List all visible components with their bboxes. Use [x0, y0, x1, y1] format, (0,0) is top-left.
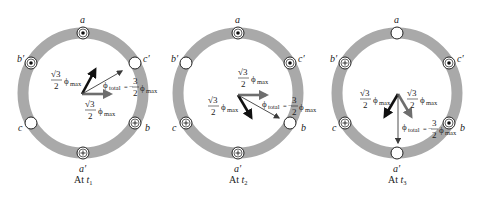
conductor-a-prime-cross-icon: [77, 147, 89, 159]
slot-label-c-prime: c′: [143, 53, 150, 64]
phi-c-component-label: √3 2 ϕ max: [238, 67, 269, 89]
stator-ring: [178, 33, 298, 153]
conductor-a-prime-empty-icon: [391, 147, 403, 159]
svg-text:ϕ: ϕ: [262, 99, 267, 109]
svg-text:2: 2: [292, 107, 297, 117]
phi-a-component-label: √3 2 ϕ max: [51, 69, 82, 91]
svg-text:3: 3: [292, 95, 297, 105]
svg-text:= −: = −: [283, 102, 292, 109]
svg-text:2: 2: [54, 81, 59, 91]
slot-label-b: b: [301, 122, 306, 133]
conductor-c-prime-dot-icon: [443, 57, 455, 69]
conductor-a-empty-icon: [391, 27, 403, 39]
conductor-a-prime-cross-icon: [232, 147, 244, 159]
stator-field-figure: a c′ b a′ c b′ √3 2 ϕ max √3 2 ϕ max ϕ t…: [0, 0, 485, 200]
svg-text:total: total: [268, 103, 280, 110]
conductor-c-prime-empty-icon: [129, 57, 141, 69]
phi-b-component-label: √3 2 ϕ max: [85, 99, 116, 121]
panel-t3: a c′ b a′ c b′ √3 2 ϕ max √3 2 ϕ max ϕ t…: [330, 14, 465, 186]
svg-text:= −: = −: [124, 83, 133, 90]
svg-text:max: max: [104, 110, 116, 117]
svg-text:At t1: At t1: [74, 174, 93, 186]
stator-ring: [337, 33, 457, 153]
svg-text:√3: √3: [51, 69, 61, 79]
svg-text:ϕ: ϕ: [299, 102, 304, 112]
svg-text:√3: √3: [360, 88, 370, 98]
svg-text:total: total: [408, 126, 420, 133]
slot-label-c-prime: c′: [457, 53, 464, 64]
svg-text:ϕ: ϕ: [140, 83, 145, 93]
svg-text:max: max: [445, 129, 457, 136]
svg-text:2: 2: [133, 88, 138, 98]
conductor-b-empty-icon: [284, 117, 296, 129]
svg-text:= −: = −: [423, 125, 432, 132]
conductor-c-empty-icon: [25, 117, 37, 129]
slot-label-a-prime: a′: [393, 163, 401, 174]
caption-t1: At t1: [74, 174, 93, 186]
svg-text:2: 2: [211, 107, 216, 117]
slot-label-b-prime: b′: [17, 53, 25, 64]
svg-text:3: 3: [133, 76, 138, 86]
svg-text:√3: √3: [85, 99, 95, 109]
conductor-c-cross-icon: [180, 117, 192, 129]
svg-text:max: max: [146, 87, 158, 94]
svg-text:2: 2: [241, 79, 246, 89]
conductor-b-cross-icon: [129, 117, 141, 129]
svg-text:max: max: [379, 99, 391, 106]
slot-label-a-prime: a′: [79, 163, 87, 174]
conductor-c-prime-dot-icon: [284, 57, 296, 69]
svg-text:√3: √3: [238, 67, 248, 77]
slot-label-a: a: [80, 14, 85, 25]
svg-text:ϕ: ϕ: [221, 102, 226, 112]
svg-text:ϕ: ϕ: [103, 80, 108, 90]
svg-text:2: 2: [432, 130, 437, 140]
conductor-b-prime-empty-icon: [180, 57, 192, 69]
slot-label-c-prime: c′: [298, 53, 305, 64]
slot-label-a: a: [394, 14, 399, 25]
slot-label-a-prime: a′: [234, 163, 242, 174]
conductor-b-prime-cross-icon: [339, 57, 351, 69]
svg-text:total: total: [109, 84, 121, 91]
conductor-b-dot-icon: [443, 117, 455, 129]
svg-text:ϕ: ϕ: [402, 122, 407, 132]
conductor-b-prime-dot-icon: [25, 57, 37, 69]
svg-text:√3: √3: [208, 95, 218, 105]
svg-text:2: 2: [410, 100, 415, 110]
conductor-a-dot-icon: [77, 27, 89, 39]
svg-text:max: max: [426, 99, 438, 106]
svg-text:3: 3: [432, 118, 437, 128]
slot-label-b: b: [460, 122, 465, 133]
slot-label-a: a: [235, 14, 240, 25]
svg-text:ϕ: ϕ: [373, 95, 378, 105]
svg-text:max: max: [305, 106, 317, 113]
svg-text:At t2: At t2: [229, 174, 248, 186]
slot-label-c: c: [332, 122, 337, 133]
svg-text:√3: √3: [407, 88, 417, 98]
panel-t2: a c′ b a′ c b′ √3 2 ϕ max √3 2 ϕ max ϕ t…: [171, 14, 317, 186]
phi-c-component-label: √3 2 ϕ max: [407, 88, 438, 110]
svg-text:ϕ: ϕ: [98, 106, 103, 116]
panel-t1: a c′ b a′ c b′ √3 2 ϕ max √3 2 ϕ max ϕ t…: [17, 14, 158, 186]
slot-label-b: b: [145, 122, 150, 133]
svg-text:2: 2: [363, 100, 368, 110]
slot-label-c: c: [172, 122, 177, 133]
svg-text:ϕ: ϕ: [439, 125, 444, 135]
phi-total-label: ϕ total = − 3 2 ϕ max: [103, 76, 158, 98]
slot-label-b-prime: b′: [330, 53, 338, 64]
conductor-c-cross-icon: [339, 117, 351, 129]
svg-text:ϕ: ϕ: [420, 95, 425, 105]
caption-t3: At t3: [388, 174, 407, 186]
svg-text:2: 2: [88, 111, 93, 121]
svg-text:max: max: [257, 78, 269, 85]
phi-a-component-label: √3 2 ϕ max: [208, 95, 239, 117]
slot-label-c: c: [18, 122, 23, 133]
caption-t2: At t2: [229, 174, 248, 186]
slot-label-b-prime: b′: [171, 53, 179, 64]
svg-text:At t3: At t3: [388, 174, 407, 186]
svg-text:ϕ: ϕ: [251, 74, 256, 84]
svg-text:max: max: [227, 106, 239, 113]
conductor-a-dot-icon: [232, 27, 244, 39]
svg-text:max: max: [70, 80, 82, 87]
svg-text:ϕ: ϕ: [64, 76, 69, 86]
phi-b-component-label: √3 2 ϕ max: [360, 88, 391, 110]
